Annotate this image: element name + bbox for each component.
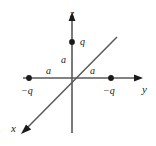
charge-dot-nq-right [108,75,114,81]
charge-label-nq-left: −q [21,86,33,96]
charge-dot-q-top [69,39,75,45]
y-axis-arrowhead [134,75,143,82]
y-axis-label: y [142,84,147,95]
charge-label-q-top: q [80,37,85,47]
distance-label-a-right: a [90,66,95,76]
y-axis [23,75,143,82]
axes-diagram-svg [0,0,156,146]
distance-label-a-z: a [61,55,66,65]
coordinate-axes-figure: z y x q −q −q a a a [0,0,156,146]
x-axis-label: x [11,123,16,134]
distance-label-a-left: a [46,66,51,76]
z-axis-label: z [70,8,74,19]
charge-label-nq-right: −q [103,86,115,96]
z-axis [69,12,76,133]
charge-dot-nq-left [26,75,32,81]
